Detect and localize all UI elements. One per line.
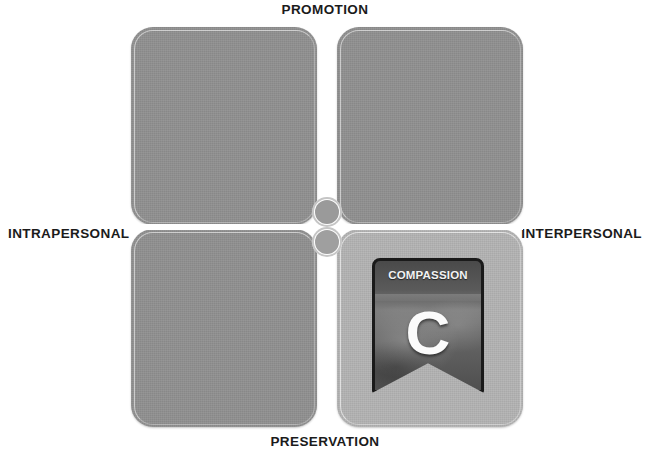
quadrant-inner-highlight <box>340 30 521 223</box>
quadrant-texture <box>131 27 317 225</box>
quadrant-top-left[interactable] <box>131 27 317 225</box>
interlock-notch-bottom-icon <box>312 227 342 257</box>
quadrant-texture <box>337 27 523 225</box>
badge-title: COMPASSION <box>372 269 484 281</box>
quadrant-bottom-left[interactable] <box>131 229 317 427</box>
axis-label-left: INTRAPERSONAL <box>8 226 129 241</box>
quadrant-inner-highlight <box>134 232 315 425</box>
quadrant-texture <box>131 229 317 427</box>
quadrant-top-right[interactable] <box>337 27 523 225</box>
interlock-notch-fill <box>315 230 339 254</box>
badge-letter: C <box>372 302 484 364</box>
quadrant-inner-highlight <box>134 30 315 223</box>
axis-label-bottom: PRESERVATION <box>0 434 650 449</box>
axis-label-top: PROMOTION <box>0 2 650 17</box>
axis-label-right: INTERPERSONAL <box>521 226 642 241</box>
quadrant-diagram: PROMOTION INTRAPERSONAL INTERPERSONAL PR… <box>0 0 650 465</box>
interlock-notch-top-icon <box>312 197 342 227</box>
compassion-badge[interactable]: COMPASSION C <box>372 258 484 393</box>
interlock-notch-fill <box>315 200 339 224</box>
